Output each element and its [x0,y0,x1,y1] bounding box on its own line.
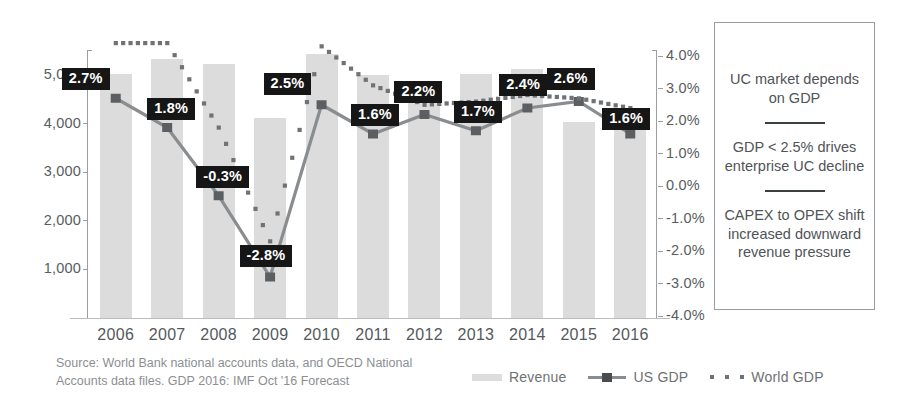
data-label: 2.4% [499,74,547,96]
source-note: Source: World Bank national accounts dat… [56,355,456,391]
source-line-1: Source: World Bank national accounts dat… [56,355,456,373]
right-tick-2: 2.0% [658,112,700,128]
revenue-bar [254,118,286,318]
legend-item-us-gdp: US GDP [588,369,688,385]
revenue-bar [563,122,595,318]
world-gdp-dot [614,103,618,107]
world-gdp-dot [547,94,551,98]
callout-text-1: UC market depends on GDP [723,70,866,107]
legend-label-world-gdp: World GDP [751,369,823,385]
world-gdp-dot [128,41,132,45]
world-gdp-dot [187,77,191,81]
chart-legend: Revenue US GDP World GDP [472,369,824,385]
data-label: 2.7% [62,68,110,90]
world-gdp-dot [121,41,125,45]
chart-root: 5,0004,0003,0002,0001,000 4.0%3.0%2.0%1.… [0,0,899,411]
world-gdp-dot [143,41,147,45]
right-axis-cap [652,50,657,51]
revenue-bar [408,92,440,318]
world-gdp-dot [246,191,250,195]
world-gdp-dot [577,96,581,100]
left-tick-4: 1,000 [12,260,88,276]
data-label: 2.2% [394,81,442,103]
category-axis-line [70,318,670,319]
us-gdp-marker [574,97,584,106]
right-tick-4: 0.0% [658,177,700,193]
world-gdp-dot [136,41,140,45]
right-tick-3: 1.0% [658,145,700,161]
source-line-2: Accounts data files. GDP 2016: IMF Oct '… [56,373,456,391]
category-label: 2016 [600,326,660,344]
dotted-line-swatch-icon [710,375,744,379]
right-tick-7: -3.0% [658,275,705,291]
left-axis-cap [87,50,92,51]
left-tick-3: 2,000 [12,212,88,228]
data-label: 1.6% [351,104,399,126]
right-tick-1: 3.0% [658,80,700,96]
right-tick-0: 4.0% [658,47,700,63]
legend-label-us-gdp: US GDP [633,369,688,385]
world-gdp-dot [290,156,294,160]
bar-swatch-icon [472,374,502,381]
world-gdp-dot [165,41,169,45]
world-gdp-dot [349,67,353,71]
data-label: 2.5% [264,73,312,95]
data-label: 1.7% [454,101,502,123]
legend-item-world-gdp: World GDP [710,369,823,385]
world-gdp-dot [584,98,588,102]
callout-text-2: GDP < 2.5% drives enterprise UC decline [723,138,866,175]
world-gdp-dot [445,101,449,105]
revenue-bar [511,69,543,318]
world-gdp-dot [342,61,346,65]
revenue-bar [203,64,235,318]
insight-callout-box: UC market depends on GDP GDP < 2.5% driv… [714,22,875,310]
world-gdp-dot [114,41,118,45]
right-tick-8: -4.0% [658,307,705,323]
world-gdp-dot [320,44,324,48]
data-label: -2.8% [240,245,293,267]
revenue-bar [100,74,132,318]
left-tick-1: 4,000 [12,115,88,131]
world-gdp-dot [562,95,566,99]
world-gdp-dot [158,41,162,45]
world-gdp-dot [297,128,301,132]
line-marker-swatch-icon [588,372,626,382]
world-gdp-dot [150,41,154,45]
right-tick-5: -1.0% [658,210,705,226]
world-gdp-dot [599,100,603,104]
data-label: 1.8% [147,98,195,120]
data-label: 2.6% [547,68,595,90]
legend-item-revenue: Revenue [472,369,566,385]
world-gdp-dot [592,99,596,103]
world-gdp-dot [555,95,559,99]
callout-divider-2 [765,190,825,192]
callout-text-3: CAPEX to OPEX shift increased downward r… [723,206,866,262]
world-gdp-dot [195,89,199,93]
data-label: -0.3% [196,166,249,188]
world-gdp-dot [503,96,507,100]
right-tick-6: -2.0% [658,242,705,258]
world-gdp-dot [173,53,177,57]
revenue-bar [614,130,646,318]
left-tick-2: 3,000 [12,163,88,179]
data-label: 1.6% [602,108,650,130]
right-axis-line [656,50,657,318]
world-gdp-dot [606,102,610,106]
world-gdp-dot [569,96,573,100]
legend-label-revenue: Revenue [509,369,566,385]
callout-divider-1 [765,122,825,124]
